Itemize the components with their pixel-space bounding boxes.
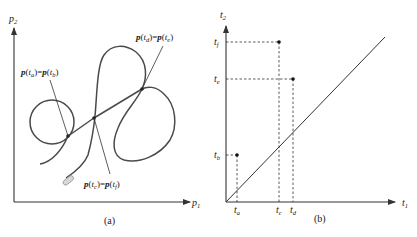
ytick-tf: tf	[214, 36, 220, 48]
caption-a: (a)	[104, 215, 115, 227]
point-td-te	[291, 77, 295, 81]
leader-cf	[94, 118, 110, 174]
leader-ab	[50, 80, 68, 136]
diagonal-line	[226, 37, 385, 202]
xtick-td: td	[290, 204, 297, 216]
curve-diagonal	[68, 89, 142, 136]
point-tc-tf	[277, 40, 281, 44]
t1-label: t1	[402, 197, 408, 209]
ytick-te: te	[214, 73, 220, 85]
p2-label: p2	[8, 13, 18, 25]
panel-b: t2 t1 tf te tb ta tc td (b)	[214, 9, 408, 225]
t2-label: t2	[220, 9, 227, 21]
caption-b: (b)	[314, 213, 326, 225]
point-ta-tb	[235, 153, 239, 157]
xtick-tc: tc	[276, 204, 282, 216]
ytick-tb: tb	[214, 149, 221, 161]
p1-label: p1	[191, 197, 200, 209]
panel-a: p2 p1 p(ta)=p(tb) p(td)=p(te) p(tc)=p(tf…	[8, 13, 200, 227]
annotation-cf: p(tc)=p(tf)	[83, 179, 120, 190]
annotation-de: p(td)=p(te)	[135, 32, 173, 43]
xtick-ta: ta	[234, 204, 240, 216]
central-loop	[66, 46, 175, 178]
figure: p2 p1 p(ta)=p(tb) p(td)=p(te) p(tc)=p(tf…	[0, 0, 417, 237]
annotation-ab: p(ta)=p(tb)	[20, 67, 59, 78]
